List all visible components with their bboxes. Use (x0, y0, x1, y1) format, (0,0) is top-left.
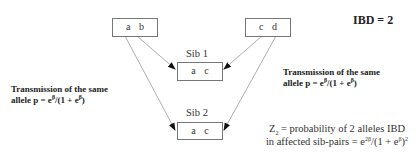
parent-box-2: c d (245, 18, 291, 37)
z2-formula-line2: in affected sib-pairs = e2β/(1 + eβ)2 (258, 135, 416, 148)
line-ab-to-sib2 (125, 36, 175, 130)
right-annotation-line1: Transmission of the same (283, 67, 380, 78)
left-annotation: Transmission of the same allele p = eβ/(… (11, 84, 108, 106)
line-cd-to-sib1 (224, 36, 262, 69)
z2-formula: Z2 = probability of 2 alleles IBD in aff… (258, 122, 416, 148)
sib1-box: a c (177, 62, 223, 81)
right-annotation-line2: allele p = eβ/(1 + eβ) (283, 78, 380, 89)
sib2-label: Sib 2 (186, 107, 208, 118)
parent-box-1: a b (112, 18, 158, 37)
ibd-title: IBD = 2 (353, 13, 393, 28)
sib1-label: Sib 1 (186, 48, 208, 59)
left-annotation-line1: Transmission of the same (11, 84, 108, 95)
sib2-box: a c (177, 122, 223, 140)
line-cd-to-sib2 (224, 36, 276, 130)
z2-formula-line1: Z2 = probability of 2 alleles IBD (258, 122, 416, 135)
line-ab-to-sib1 (137, 36, 175, 69)
right-annotation: Transmission of the same allele p = eβ/(… (283, 67, 380, 89)
left-annotation-line2: allele p = eβ/(1 + eβ) (11, 95, 108, 106)
